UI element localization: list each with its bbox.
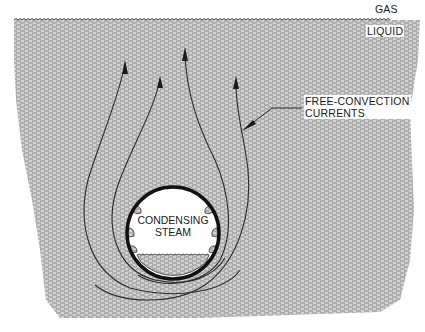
free-convection-label-line1: FREE-CONVECTION [305, 95, 410, 107]
diagram-canvas [0, 0, 425, 332]
free-convection-label-line2: CURRENTS [305, 107, 410, 119]
liquid-surface-line [14, 19, 390, 21]
condensing-steam-label-line1: CONDENSING [128, 214, 218, 226]
free-convection-label: FREE-CONVECTION CURRENTS [304, 95, 411, 119]
condensing-steam-label-line2: STEAM [128, 226, 218, 238]
liquid-label: LIQUID [366, 25, 404, 37]
liquid-region [14, 20, 420, 318]
gas-label: GAS [375, 3, 398, 15]
condensing-steam-label: CONDENSING STEAM [128, 214, 218, 238]
convection-diagram: GAS LIQUID FREE-CONVECTION CURRENTS COND… [0, 0, 425, 332]
